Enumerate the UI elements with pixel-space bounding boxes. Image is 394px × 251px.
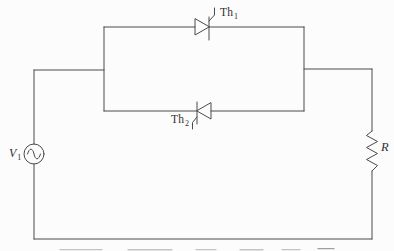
schematic-drawing (0, 0, 394, 251)
th2-label: Th2 (171, 114, 189, 126)
th2-label-base: Th (171, 113, 184, 125)
thyristor-th2-symbol (193, 102, 212, 129)
load-label: R (381, 141, 389, 154)
th2-gate-lead (193, 117, 198, 129)
ac-source-symbol (24, 144, 44, 164)
source-label-subscript: 1 (17, 153, 21, 162)
th1-label-subscript: 1 (234, 12, 238, 21)
thyristor-th1-symbol (195, 8, 215, 40)
wires (34, 27, 372, 239)
resistor-symbol (367, 131, 378, 171)
sine-wave-icon (28, 149, 41, 159)
th1-label: Th1 (220, 7, 238, 19)
source-label-base: V (9, 146, 17, 160)
caption-remnant (60, 249, 334, 250)
th2-label-subscript: 2 (185, 119, 189, 128)
th1-gate-lead (209, 8, 215, 21)
th1-label-base: Th (220, 6, 233, 18)
source-label: V1 (9, 147, 21, 159)
circuit-diagram: Th1 Th2 V1 R (0, 0, 394, 251)
